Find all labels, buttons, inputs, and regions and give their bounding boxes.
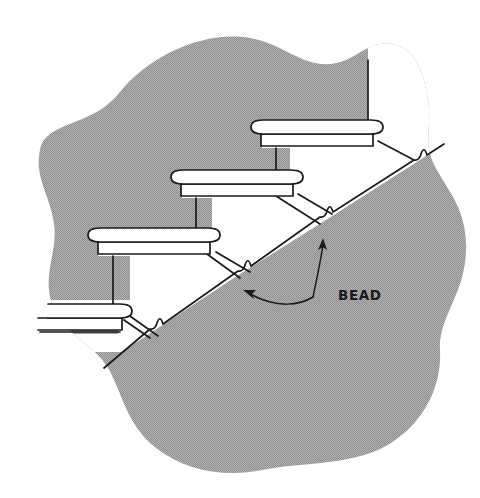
lower-step-nosing (88, 228, 220, 242)
figure-container: BEAD (0, 0, 480, 498)
stair-bead-diagram: BEAD (0, 0, 480, 498)
top-step-tread-slab (261, 134, 373, 146)
middle-step-nosing (171, 170, 303, 184)
bottom-step-nosing (48, 304, 132, 318)
wall-mass-group (0, 0, 480, 498)
top-step-nosing (251, 120, 383, 134)
lower-step-tread-slab (98, 242, 210, 254)
middle-step-tread-slab (181, 184, 293, 196)
bottom-step-tread-slab (38, 318, 122, 330)
bead-label: BEAD (338, 287, 382, 303)
